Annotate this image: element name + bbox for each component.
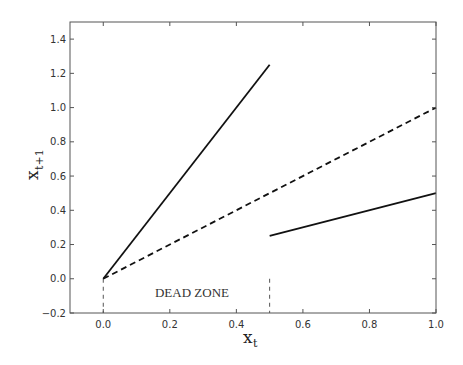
- y-tick-label: 1.4: [50, 34, 66, 45]
- x-axis-label-main: x: [243, 327, 253, 347]
- x-tick-label: 1.0: [428, 319, 444, 330]
- y-tick-label: 0.2: [50, 239, 66, 250]
- axes-frame: [70, 22, 436, 313]
- map-lower-branch: [270, 193, 436, 236]
- y-axis-label-subscript: t+1: [33, 149, 46, 170]
- y-tick-label: 1.2: [50, 68, 66, 79]
- y-axis-ticks: −0.20.00.20.40.60.81.01.21.4: [42, 34, 436, 319]
- axes-border: [70, 22, 436, 313]
- x-tick-label: 0.6: [295, 319, 311, 330]
- y-tick-label: 0.4: [50, 205, 66, 216]
- plot-area: [103, 65, 436, 313]
- x-axis-ticks: 0.00.20.40.60.81.0: [95, 22, 444, 330]
- chart: 0.00.20.40.60.81.0 −0.20.00.20.40.60.81.…: [0, 0, 463, 365]
- y-tick-label: 0.0: [50, 273, 66, 284]
- identity-line: [103, 108, 436, 279]
- x-tick-label: 0.8: [362, 319, 378, 330]
- x-tick-label: 0.2: [162, 319, 178, 330]
- x-tick-label: 0.0: [95, 319, 111, 330]
- y-tick-label: 0.6: [50, 171, 66, 182]
- x-tick-label: 0.4: [228, 319, 244, 330]
- y-tick-label: −0.2: [42, 308, 66, 319]
- x-axis-label: x t: [243, 327, 258, 350]
- y-axis-label: x t+1: [22, 149, 46, 180]
- y-tick-label: 0.8: [50, 136, 66, 147]
- map-upper-branch: [103, 65, 269, 279]
- y-axis-label-main: x: [22, 170, 42, 180]
- dead-zone-annotation: DEAD ZONE: [155, 285, 229, 300]
- x-axis-label-subscript: t: [253, 337, 258, 350]
- y-tick-label: 1.0: [50, 102, 66, 113]
